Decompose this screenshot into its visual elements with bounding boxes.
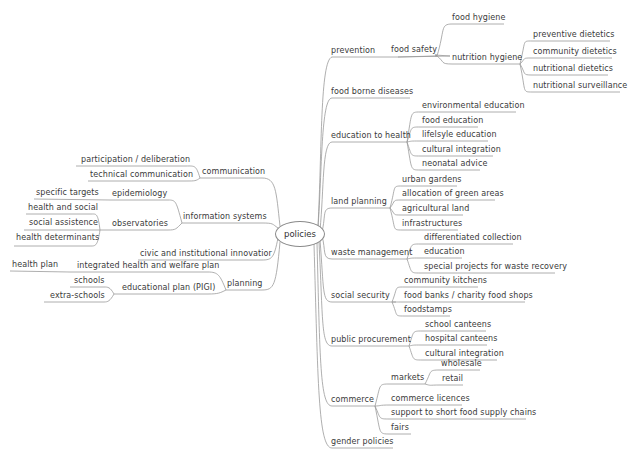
node-communication[interactable]: communication <box>202 167 265 177</box>
node-information-systems[interactable]: information systems <box>183 212 267 222</box>
node-gender-policies[interactable]: gender policies <box>331 437 394 447</box>
node-food-education[interactable]: food education <box>422 116 483 126</box>
node-preventive-dietetics[interactable]: preventive dietetics <box>533 30 615 40</box>
node-social-security[interactable]: social security <box>331 291 390 301</box>
node-nutritional-dietetics[interactable]: nutritional dietetics <box>533 64 613 74</box>
node-special-projects-waste[interactable]: special projects for waste recovery <box>424 262 567 272</box>
node-food-hygiene[interactable]: food hygiene <box>452 13 505 23</box>
node-cultural-integration-pp[interactable]: cultural integration <box>425 349 504 359</box>
node-environmental-education[interactable]: environmental education <box>422 101 525 111</box>
node-education-waste[interactable]: education <box>424 247 465 257</box>
node-allocation-green-areas[interactable]: allocation of green areas <box>402 189 504 199</box>
node-commerce-licences[interactable]: commerce licences <box>391 394 470 404</box>
node-cultural-integration-edu[interactable]: cultural integration <box>422 145 501 155</box>
node-health-determinants[interactable]: health determinants <box>16 233 99 243</box>
node-health-and-social[interactable]: health and social <box>28 203 98 213</box>
node-participation-deliberation[interactable]: participation / deliberation <box>81 155 190 165</box>
node-community-kitchens[interactable]: community kitchens <box>404 276 487 286</box>
node-wholesale[interactable]: wholesale <box>441 359 482 369</box>
node-planning[interactable]: planning <box>227 279 263 289</box>
node-markets[interactable]: markets <box>391 373 424 383</box>
node-social-assistence[interactable]: social assistence <box>29 218 98 228</box>
node-public-procurement[interactable]: public procurement <box>331 335 411 345</box>
node-epidemiology[interactable]: epidemiology <box>112 189 167 199</box>
node-retail[interactable]: retail <box>442 374 463 384</box>
node-food-safety[interactable]: food safety <box>391 45 437 55</box>
node-nutritional-surveillance[interactable]: nutritional surveillance <box>533 81 627 91</box>
node-observatories[interactable]: observatories <box>112 219 168 229</box>
node-land-planning[interactable]: land planning <box>331 197 387 207</box>
node-extra-schools[interactable]: extra-schools <box>50 291 105 301</box>
node-infrastructures[interactable]: infrastructures <box>402 219 462 229</box>
node-differentiated-collection[interactable]: differentiated collection <box>424 233 522 243</box>
root-node-policies[interactable]: policies <box>275 221 325 247</box>
node-food-banks[interactable]: food banks / charity food shops <box>404 291 533 301</box>
root-label: policies <box>284 229 316 239</box>
node-community-dietetics[interactable]: community dietetics <box>533 47 617 57</box>
node-agricultural-land[interactable]: agricultural land <box>402 204 469 214</box>
node-school-canteens[interactable]: school canteens <box>425 320 491 330</box>
node-waste-management[interactable]: waste management <box>331 248 412 258</box>
node-schools[interactable]: schools <box>74 276 105 286</box>
node-food-borne-diseases[interactable]: food borne diseases <box>331 87 413 97</box>
node-education-to-health[interactable]: education to health <box>331 131 411 141</box>
mind-map-canvas: policies prevention food borne diseases … <box>0 0 633 464</box>
node-commerce[interactable]: commerce <box>331 395 374 405</box>
node-foodstamps[interactable]: foodstamps <box>404 305 452 315</box>
node-lifestyle-education[interactable]: lifelsyle education <box>422 130 497 140</box>
node-short-supply-chains[interactable]: support to short food supply chains <box>391 408 536 418</box>
node-health-plan[interactable]: health plan <box>12 260 58 270</box>
node-educational-plan-pigi[interactable]: educational plan (PIGI) <box>122 283 215 293</box>
node-technical-communication[interactable]: technical communication <box>90 170 193 180</box>
node-neonatal-advice[interactable]: neonatal advice <box>422 159 487 169</box>
node-civic-institutional-innovation[interactable]: civic and institutional innovatior <box>140 249 272 259</box>
node-prevention[interactable]: prevention <box>331 46 375 56</box>
node-urban-gardens[interactable]: urban gardens <box>402 175 462 185</box>
node-fairs[interactable]: fairs <box>391 423 409 433</box>
node-integrated-health-welfare-plan[interactable]: integrated health and welfare plan <box>77 261 219 271</box>
node-specific-targets[interactable]: specific targets <box>36 188 99 198</box>
node-hospital-canteens[interactable]: hospital canteens <box>425 334 498 344</box>
node-nutrition-hygiene[interactable]: nutrition hygiene <box>452 53 522 63</box>
